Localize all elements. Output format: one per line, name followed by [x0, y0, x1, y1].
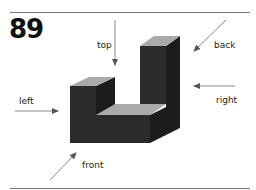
label-left: left	[19, 96, 34, 106]
label-right: right	[216, 95, 237, 105]
front-arrow	[50, 153, 76, 180]
label-top: top	[97, 40, 112, 50]
label-front: front	[82, 160, 103, 170]
right-tower	[140, 36, 180, 110]
label-back: back	[214, 40, 235, 50]
